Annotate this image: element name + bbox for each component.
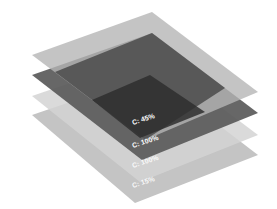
stacked-layers-diagram: C: 45% C: 100% C: 100% C: 15% bbox=[0, 0, 277, 209]
